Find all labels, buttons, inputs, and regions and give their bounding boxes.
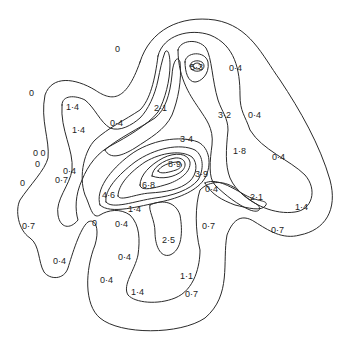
contour-label: 0·4 <box>205 184 218 194</box>
contour-label: 1·1 <box>180 271 193 281</box>
contour-label-peak: 8·9 <box>168 159 181 169</box>
contour-label: 0·4 <box>53 256 66 266</box>
contour-label: 0·7 <box>202 221 215 231</box>
contour-label: 0·7 <box>185 289 198 299</box>
contour-label: 0 0 <box>33 148 46 158</box>
contour-label: 4·6 <box>102 190 115 200</box>
contour-label: 2·1 <box>154 103 167 113</box>
contour-map: 0 5·3 0·4 0 1·4 2·1 0·4 1·4 3·2 0·4 3·4 … <box>0 0 345 340</box>
contour-label: 1·4 <box>128 204 141 214</box>
contour-label: 0·4 <box>115 219 128 229</box>
contour-label: 0·4 <box>248 110 261 120</box>
contour-label: 0·7 <box>55 175 68 185</box>
contour-label: 1·8 <box>233 146 246 156</box>
contour-label: 0 <box>29 88 34 98</box>
contour-label: 3·9 <box>195 169 208 179</box>
contour-label: 0·7 <box>271 225 284 235</box>
contour-label: 3·2 <box>218 110 231 120</box>
contour-label: 3·4 <box>180 134 193 144</box>
contour-label: 0 <box>20 178 25 188</box>
contour-label: 2·1 <box>250 192 263 202</box>
contour-label: 2·5 <box>162 235 175 245</box>
contour-labels-layer: 0 5·3 0·4 0 1·4 2·1 0·4 1·4 3·2 0·4 3·4 … <box>0 0 345 340</box>
contour-label: 0·4 <box>272 152 285 162</box>
contour-label: 6·8 <box>142 180 155 190</box>
contour-label: 0·4 <box>118 252 131 262</box>
contour-label: 1·4 <box>72 125 85 135</box>
contour-label: 1·4 <box>66 102 79 112</box>
contour-label: 1·4 <box>131 287 144 297</box>
contour-label: 1·4 <box>295 202 308 212</box>
contour-label: 0 <box>92 218 97 228</box>
contour-label-peak: 5·3 <box>190 62 203 72</box>
contour-label: 0·4 <box>110 118 123 128</box>
contour-label: 0 <box>115 44 120 54</box>
contour-label: 0·7 <box>22 221 35 231</box>
contour-label: 0·4 <box>229 63 242 73</box>
contour-label: 0 <box>35 159 40 169</box>
contour-label: 0·4 <box>100 275 113 285</box>
